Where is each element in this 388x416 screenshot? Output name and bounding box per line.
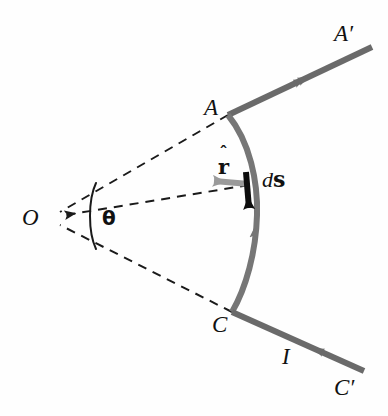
r-hat-letter: r <box>218 158 229 176</box>
label-angle-theta: θ <box>102 208 116 228</box>
diagram-svg <box>0 0 388 416</box>
label-r-hat-unit-vector: ˆ r <box>218 148 229 176</box>
dashed-radius-OA <box>60 115 228 212</box>
dashed-radius-OC <box>60 225 232 312</box>
current-arrowhead-lower <box>292 339 322 352</box>
current-carrying-arc-A-to-C <box>228 115 257 312</box>
label-point-a-prime: A′ <box>334 22 353 45</box>
label-point-c: C <box>212 313 227 336</box>
figure-canvas: A A′ C C′ O I θ ˆ r ds <box>0 0 388 416</box>
ds-vector-arrow <box>246 172 249 208</box>
r-hat-unit-vector-arrow <box>214 181 249 184</box>
theta-angle-arc <box>90 183 96 249</box>
label-point-a: A <box>204 96 218 119</box>
label-current-i: I <box>282 345 290 368</box>
ds-vector-s: s <box>273 166 285 192</box>
label-origin-o: O <box>22 206 39 229</box>
label-point-c-prime: C′ <box>334 376 354 399</box>
wire-segment-lower-C-to-Cprime <box>232 312 364 371</box>
label-ds-vector: ds <box>262 168 285 191</box>
ds-differential-d: d <box>262 167 273 192</box>
